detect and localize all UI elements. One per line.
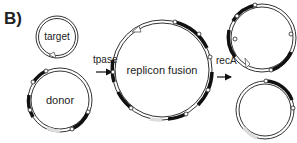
fusion-label: replicon fusion <box>127 64 198 76</box>
product-plasmid-2 <box>236 79 295 139</box>
panel-label: B) <box>4 9 22 28</box>
donor-label: donor <box>46 94 74 106</box>
donor-plasmid: donor <box>28 68 92 132</box>
target-plasmid: target <box>36 16 78 58</box>
target-label: target <box>44 31 70 42</box>
transposon-segment <box>34 71 46 82</box>
diagram-canvas: B) target donor tpase <box>0 0 297 143</box>
fusion-plasmid: replicon fusion <box>111 20 212 120</box>
product-plasmid-1 <box>228 3 296 72</box>
